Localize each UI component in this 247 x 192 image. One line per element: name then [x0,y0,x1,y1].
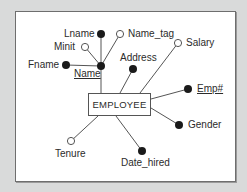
attr-date-hired: Date_hired [121,157,170,169]
empno-required-dot [184,85,192,93]
connector-fname-name [66,65,101,66]
entity-employee[interactable]: EMPLOYEE [88,93,151,116]
attr-name-key: Name [74,68,101,80]
connector-datehired [116,116,142,151]
salary-optional-circle [174,39,181,46]
lname-required-dot [97,30,105,38]
datehired-required-dot [138,147,146,155]
fname-required-dot [62,61,70,69]
connector-salary [140,43,178,93]
tenure-optional-circle [67,137,74,144]
minit-optional-circle [81,43,88,50]
connector-empno [151,89,188,99]
attr-tenure: Tenure [55,148,86,160]
connector-nametag-name [101,34,120,66]
gender-required-dot [175,121,183,129]
attr-lname: Lname [64,28,95,40]
attr-minit: Minit [54,41,75,53]
attr-name-tag: Name_tag [128,28,174,40]
entity-label: EMPLOYEE [93,99,147,110]
attr-address: Address [120,52,157,64]
attr-salary: Salary [186,37,214,49]
nametag-optional-circle [116,30,123,37]
connector-gender [151,108,179,125]
address-required-dot [129,65,137,73]
attr-empno-key: Emp# [197,83,223,95]
attr-fname: Fname [28,59,59,71]
attr-gender: Gender [188,119,221,131]
connector-address [120,69,133,93]
connector-tenure [71,116,98,141]
